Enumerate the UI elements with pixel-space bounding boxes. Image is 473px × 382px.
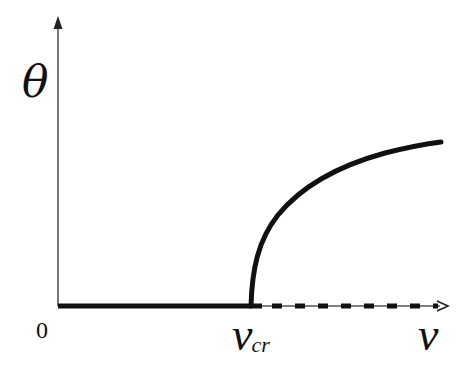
y-axis-arrowhead-icon	[54, 16, 63, 29]
x-axis-label: v	[418, 312, 438, 358]
critical-value-label: vcr	[232, 312, 270, 358]
origin-label: 0	[36, 318, 48, 342]
critical-label-main: v	[232, 309, 252, 360]
critical-label-subscript: cr	[251, 332, 269, 357]
nonzero-branch-curve	[251, 142, 441, 306]
y-axis-label: θ	[22, 60, 49, 104]
